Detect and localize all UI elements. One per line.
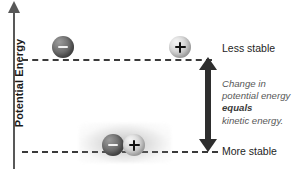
upper-level-dashed-line [22, 59, 212, 61]
negative-charge-sphere-bottom [102, 134, 124, 156]
positive-charge-sphere-bottom [123, 134, 145, 156]
upper-level-label: Less stable [222, 42, 275, 54]
annotation-line-4: kinetic energy. [222, 115, 296, 127]
potential-energy-diagram: Potential Energy Less stable More stable… [0, 0, 297, 169]
annotation-emphasis: equals [222, 102, 296, 114]
positive-charge-sphere-top [169, 36, 191, 58]
y-axis-label: Potential Energy [13, 27, 25, 139]
annotation-line-1: Change in [222, 78, 296, 90]
arrow-shaft [205, 69, 211, 140]
energy-annotation-text: Change in potential energy equals kineti… [222, 78, 296, 127]
energy-change-double-arrow-icon [199, 57, 217, 152]
arrow-head-down-icon [199, 139, 217, 152]
lower-level-label: More stable [222, 145, 277, 157]
annotation-line-2: potential energy [222, 90, 296, 102]
negative-charge-sphere-top [52, 36, 74, 58]
